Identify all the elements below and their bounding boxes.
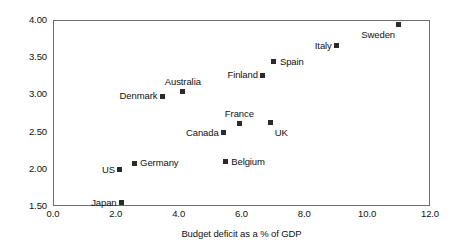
data-point-marker <box>180 89 185 94</box>
x-axis-title: Budget deficit as a % of GDP <box>53 228 430 239</box>
data-point-marker <box>271 59 276 64</box>
data-point-label: US <box>102 165 115 175</box>
data-point-label: Italy <box>315 41 332 51</box>
data-point-label: Germany <box>140 158 178 168</box>
data-point-marker <box>237 121 242 126</box>
data-point-marker <box>119 200 124 205</box>
x-tick-label: 12.0 <box>410 208 450 219</box>
data-point-label: UK <box>275 128 288 138</box>
x-tick-label: 2.0 <box>96 208 136 219</box>
data-point-label: France <box>225 109 254 119</box>
data-point-label: Denmark <box>120 91 158 101</box>
x-tick-label: 6.0 <box>222 208 262 219</box>
data-point-label: Finland <box>227 70 257 80</box>
data-point-marker <box>221 130 226 135</box>
data-point-label: Belgium <box>231 157 265 167</box>
data-point-marker <box>268 120 273 125</box>
data-point-label: Sweden <box>361 30 395 40</box>
data-point-marker <box>396 22 401 27</box>
data-point-marker <box>132 161 137 166</box>
data-point-marker <box>223 159 228 164</box>
scatter-chart-figure: 1994 increase in 10 year bond yields 1.5… <box>0 0 452 246</box>
x-tick-label: 0.0 <box>33 208 73 219</box>
data-point-marker <box>117 167 122 172</box>
data-point-label: Spain <box>280 57 304 67</box>
x-tick-label: 8.0 <box>284 208 324 219</box>
data-point-marker <box>160 94 165 99</box>
x-tick-label: 10.0 <box>347 208 387 219</box>
x-tick-label: 4.0 <box>159 208 199 219</box>
data-point-marker <box>260 73 265 78</box>
data-point-label: Australia <box>165 77 201 87</box>
data-point-marker <box>334 43 339 48</box>
plot-area: JapanUSGermanyDenmarkAustraliaBelgiumCan… <box>53 20 430 206</box>
data-point-label: Japan <box>91 198 116 208</box>
data-point-label: Canada <box>186 128 219 138</box>
